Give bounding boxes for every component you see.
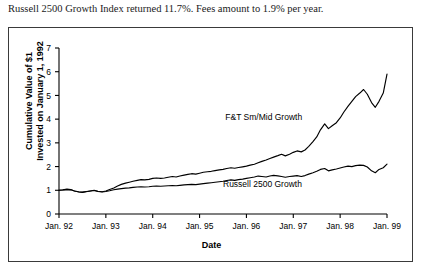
- svg-text:Jan. 94: Jan. 94: [139, 221, 167, 231]
- chart-caption: Russell 2500 Growth Index returned 11.7%…: [8, 2, 420, 15]
- svg-text:7: 7: [46, 43, 51, 53]
- series-label-lower: Russell 2500 Growth: [223, 179, 302, 189]
- series-line-upper: [59, 74, 387, 192]
- svg-text:Jan. 97: Jan. 97: [279, 221, 307, 231]
- svg-text:Jan. 93: Jan. 93: [92, 221, 120, 231]
- svg-text:1: 1: [46, 185, 51, 195]
- y-axis-ticks: 01234567: [46, 43, 59, 219]
- series-label-upper: F&T Sm/Mid Growth: [225, 112, 302, 122]
- svg-text:Jan. 92: Jan. 92: [45, 221, 73, 231]
- svg-text:6: 6: [46, 67, 51, 77]
- svg-text:2: 2: [46, 162, 51, 172]
- chart-frame: Cumulative Value of $1 Invested on Janua…: [8, 27, 413, 262]
- svg-text:4: 4: [46, 114, 51, 124]
- svg-text:Jan. 98: Jan. 98: [326, 221, 354, 231]
- svg-text:Jan. 99: Jan. 99: [373, 221, 401, 231]
- svg-text:3: 3: [46, 138, 51, 148]
- svg-text:Jan. 96: Jan. 96: [232, 221, 260, 231]
- x-axis-ticks: Jan. 92Jan. 93Jan. 94Jan. 95Jan. 96Jan. …: [45, 214, 401, 231]
- svg-text:Jan. 95: Jan. 95: [186, 221, 214, 231]
- svg-text:0: 0: [46, 209, 51, 219]
- svg-text:5: 5: [46, 91, 51, 101]
- line-chart-plot: 01234567 Jan. 92Jan. 93Jan. 94Jan. 95Jan…: [9, 28, 414, 263]
